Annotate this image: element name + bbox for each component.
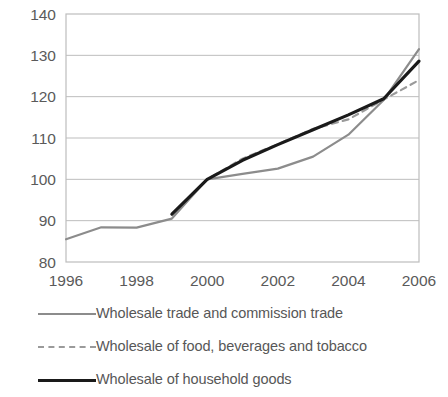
legend-swatch-solid-black-icon xyxy=(38,372,96,386)
legend-label: Wholesale of food, beverages and tobacco xyxy=(96,338,367,354)
plot-area: 8090100110120130140 19961998200020022004… xyxy=(0,0,448,300)
y-axis-tick-labels: 8090100110120130140 xyxy=(30,6,56,271)
legend-item-wholesale-trade-and-commission-trade: Wholesale trade and commission trade xyxy=(38,296,448,329)
y-tick-label: 140 xyxy=(30,6,56,23)
legend-label: Wholesale trade and commission trade xyxy=(96,305,343,321)
x-tick-label: 1996 xyxy=(49,272,83,289)
data-series-lines xyxy=(66,49,419,239)
line-chart: 8090100110120130140 19961998200020022004… xyxy=(0,0,448,397)
x-tick-label: 2004 xyxy=(331,272,366,289)
y-tick-label: 100 xyxy=(30,171,56,188)
x-tick-label: 2000 xyxy=(190,272,225,289)
y-tick-label: 80 xyxy=(39,254,57,271)
chart-legend: Wholesale trade and commission trade Who… xyxy=(0,296,448,397)
x-axis-tick-labels: 199619982000200220042006 xyxy=(49,272,436,289)
y-tick-label: 90 xyxy=(39,212,57,229)
gridlines xyxy=(66,55,419,220)
x-tick-label: 1998 xyxy=(119,272,153,289)
legend-item-wholesale-of-household-goods: Wholesale of household goods xyxy=(38,362,448,395)
y-tick-label: 110 xyxy=(31,130,56,147)
y-tick-label: 120 xyxy=(30,88,56,105)
y-tick-label: 130 xyxy=(30,47,56,64)
x-tick-label: 2002 xyxy=(261,272,295,289)
legend-swatch-dashed-gray-icon xyxy=(38,339,96,353)
legend-item-wholesale-of-food-beverages-and-tobacco: Wholesale of food, beverages and tobacco xyxy=(38,329,448,362)
legend-label: Wholesale of household goods xyxy=(96,371,292,387)
series-line xyxy=(66,49,419,239)
legend-swatch-solid-gray-icon xyxy=(38,306,96,320)
x-tick-label: 2006 xyxy=(402,272,436,289)
